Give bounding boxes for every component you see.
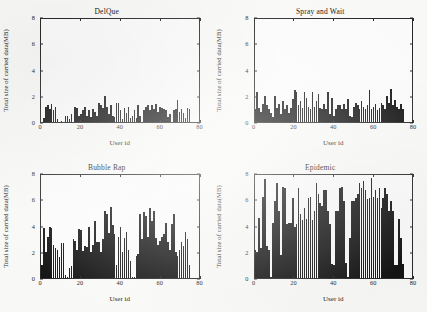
y-tick-mark <box>410 44 413 45</box>
bar-series <box>255 19 413 122</box>
y-tick-label: 6 <box>245 197 248 203</box>
y-tick-mark <box>197 226 200 227</box>
x-tick-mark <box>333 276 334 279</box>
y-tick-mark <box>197 96 200 97</box>
y-tick-label: 6 <box>32 197 35 203</box>
x-axis-label: User id <box>40 295 200 303</box>
bar <box>130 261 132 278</box>
x-tick-mark <box>120 174 121 177</box>
x-tick-mark <box>40 120 41 123</box>
x-tick-mark <box>254 18 255 21</box>
panel-epidemic: Epidemic Total size of carried data(MB) … <box>214 156 427 312</box>
y-tick-label: 0 <box>245 276 248 282</box>
bar <box>189 109 191 122</box>
y-tick-label: 0 <box>245 120 248 126</box>
x-tick-label: 40 <box>330 280 336 286</box>
x-tick-mark <box>160 120 161 123</box>
x-tick-mark <box>373 18 374 21</box>
x-tick-mark <box>293 18 294 21</box>
y-tick-mark <box>197 200 200 201</box>
x-axis-ticks: 020406080 <box>40 280 200 290</box>
x-tick-mark <box>200 174 201 177</box>
x-tick-mark <box>160 174 161 177</box>
x-tick-label: 20 <box>290 280 296 286</box>
x-tick-label: 20 <box>290 124 296 130</box>
bar <box>139 116 141 122</box>
y-tick-label: 4 <box>32 223 35 229</box>
y-tick-mark <box>254 96 257 97</box>
panel-delque: DelQue Total size of carried data(MB) 02… <box>0 0 214 156</box>
panel-spray-and-wait: Spray and Wait Total size of carried dat… <box>214 0 427 156</box>
x-tick-mark <box>413 120 414 123</box>
y-tick-label: 8 <box>245 15 248 21</box>
x-tick-mark <box>120 276 121 279</box>
x-axis-ticks: 020406080 <box>40 124 200 134</box>
y-axis-label: Total size of carried data(MB) <box>212 174 226 279</box>
x-tick-label: 60 <box>156 124 162 130</box>
x-tick-mark <box>200 120 201 123</box>
y-tick-label: 2 <box>245 250 248 256</box>
x-tick-label: 40 <box>330 124 336 130</box>
x-axis-label: User id <box>40 139 200 147</box>
x-tick-mark <box>80 18 81 21</box>
x-tick-label: 80 <box>196 124 202 130</box>
x-tick-mark <box>413 18 414 21</box>
x-tick-mark <box>200 276 201 279</box>
y-tick-mark <box>40 96 43 97</box>
bar <box>169 114 171 122</box>
x-tick-mark <box>80 276 81 279</box>
x-tick-mark <box>413 174 414 177</box>
x-tick-mark <box>254 120 255 123</box>
y-tick-label: 0 <box>32 120 35 126</box>
y-tick-label: 6 <box>245 41 248 47</box>
y-tick-mark <box>40 226 43 227</box>
x-tick-label: 40 <box>117 124 123 130</box>
y-tick-label: 8 <box>32 15 35 21</box>
y-tick-label: 2 <box>32 250 35 256</box>
x-tick-mark <box>80 120 81 123</box>
x-tick-label: 60 <box>156 280 162 286</box>
x-tick-mark <box>120 120 121 123</box>
x-axis-ticks: 020406080 <box>254 280 414 290</box>
x-tick-mark <box>254 174 255 177</box>
x-tick-label: 60 <box>370 280 376 286</box>
y-axis-ticks: 02468 <box>230 174 252 279</box>
bar-series <box>255 175 413 278</box>
y-tick-mark <box>254 252 257 253</box>
x-axis-label: User id <box>254 139 414 147</box>
y-tick-mark <box>40 44 43 45</box>
x-tick-label: 80 <box>410 124 416 130</box>
y-tick-label: 6 <box>32 41 35 47</box>
x-tick-mark <box>160 18 161 21</box>
y-tick-mark <box>40 252 43 253</box>
bar <box>57 119 59 122</box>
y-tick-mark <box>410 200 413 201</box>
x-tick-mark <box>293 120 294 123</box>
bar <box>63 243 65 278</box>
panel-bubble-rap: Bubble Rap Total size of carried data(MB… <box>0 156 214 312</box>
x-tick-label: 40 <box>117 280 123 286</box>
plot-area <box>40 174 200 279</box>
x-axis-label: User id <box>254 295 414 303</box>
x-tick-mark <box>120 18 121 21</box>
bar <box>189 265 191 278</box>
bar <box>71 114 73 122</box>
y-axis-ticks: 02468 <box>230 18 252 123</box>
y-tick-mark <box>254 226 257 227</box>
bar <box>402 109 404 122</box>
y-tick-label: 4 <box>32 67 35 73</box>
y-tick-label: 8 <box>245 171 248 177</box>
x-tick-label: 20 <box>77 124 83 130</box>
x-tick-mark <box>40 18 41 21</box>
y-tick-mark <box>254 70 257 71</box>
y-tick-label: 8 <box>32 171 35 177</box>
x-tick-mark <box>413 276 414 279</box>
y-tick-mark <box>197 252 200 253</box>
y-axis-ticks: 02468 <box>16 18 38 123</box>
y-axis-ticks: 02468 <box>16 174 38 279</box>
x-tick-mark <box>40 174 41 177</box>
x-tick-label: 80 <box>410 280 416 286</box>
x-tick-mark <box>333 18 334 21</box>
x-tick-label: 0 <box>38 280 41 286</box>
x-tick-label: 20 <box>77 280 83 286</box>
